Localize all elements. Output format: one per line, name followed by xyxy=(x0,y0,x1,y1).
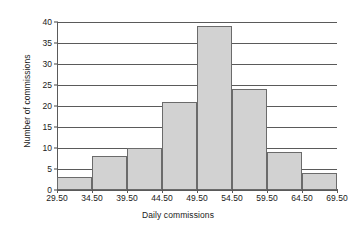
histogram-bar xyxy=(232,89,267,190)
plot-area xyxy=(57,22,337,190)
bars-group xyxy=(57,22,337,190)
histogram-bar xyxy=(302,173,337,190)
histogram-bar xyxy=(267,152,302,190)
x-axis-tick-mark xyxy=(57,189,58,193)
histogram-bar xyxy=(92,156,127,190)
x-axis-tick-labels: 29.5034.5039.5044.5049.5054.5059.5064.50… xyxy=(57,193,337,209)
x-axis-tick-mark xyxy=(337,189,338,193)
x-axis-tick-mark xyxy=(162,189,163,193)
x-axis-tick-label: 59.50 xyxy=(256,193,277,203)
x-axis-tick-mark xyxy=(267,189,268,193)
x-axis-tick-mark xyxy=(197,189,198,193)
histogram-bar xyxy=(127,148,162,190)
y-axis-tick-label: 15 xyxy=(30,122,52,132)
histogram-chart: Number of commissions 0510152025303540 2… xyxy=(0,0,356,235)
x-axis-tick-label: 39.50 xyxy=(116,193,137,203)
y-axis-tick-label: 20 xyxy=(30,101,52,111)
y-axis-tick-label: 30 xyxy=(30,59,52,69)
x-axis-tick-label: 34.50 xyxy=(81,193,102,203)
x-axis-tick-label: 49.50 xyxy=(186,193,207,203)
x-axis-tick-label: 44.50 xyxy=(151,193,172,203)
x-axis-tick-mark xyxy=(302,189,303,193)
x-axis-tick-label: 69.50 xyxy=(326,193,347,203)
x-axis-tick-mark xyxy=(92,189,93,193)
x-axis-tick-label: 54.50 xyxy=(221,193,242,203)
x-axis-title: Daily commissions xyxy=(0,210,356,220)
y-axis-tick-label: 35 xyxy=(30,38,52,48)
y-axis-tick-label: 10 xyxy=(30,143,52,153)
x-axis-tick-mark xyxy=(127,189,128,193)
y-axis-tick-label: 25 xyxy=(30,80,52,90)
histogram-bar xyxy=(162,102,197,190)
histogram-bar xyxy=(197,26,232,190)
y-axis-tick-label: 40 xyxy=(30,17,52,27)
y-axis-tick-label: 5 xyxy=(30,164,52,174)
histogram-bar xyxy=(57,177,92,190)
x-axis-tick-mark xyxy=(232,189,233,193)
x-axis-tick-label: 29.50 xyxy=(46,193,67,203)
x-axis-tick-label: 64.50 xyxy=(291,193,312,203)
